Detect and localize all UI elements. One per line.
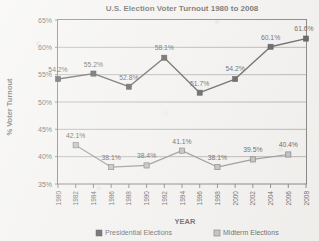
data-point-1982-42.1 [73, 143, 78, 148]
data-point-2000-54.2 [233, 76, 238, 81]
chart-title: U.S. Election Voter Turnout 1980 to 2008 [106, 4, 259, 13]
legend-swatch-presidential [96, 230, 102, 236]
chart-container: U.S. Election Voter Turnout 1980 to 2008… [0, 0, 319, 241]
y-tick-label-60: 60% [38, 44, 52, 51]
chart-legend: Presidential ElectionsMidterm Elections [96, 229, 279, 236]
x-tick-label-1996: 1996 [196, 191, 203, 206]
data-point-2006-40.4 [286, 152, 291, 157]
data-series [55, 36, 308, 170]
x-axis-title: YEAR [175, 217, 196, 226]
data-point-1992-58.1 [162, 55, 167, 60]
x-tick-label-2004: 2004 [267, 191, 274, 206]
data-point-1988-52.8 [126, 84, 131, 89]
data-point-1986-38.1 [109, 164, 114, 169]
x-tick-label-1986: 1986 [108, 191, 115, 206]
data-point-1994-41.1 [179, 148, 184, 153]
x-tick-label-2006: 2006 [285, 191, 292, 206]
data-label-2000: 54.2% [226, 65, 245, 72]
data-label-1990: 38.4% [137, 152, 156, 159]
y-axis-tick-labels: 35%40%45%50%55%60%65% [38, 17, 58, 188]
y-tick-label-35: 35% [38, 181, 52, 188]
y-tick-label-65: 65% [38, 17, 52, 24]
data-label-2002: 39.5% [243, 146, 262, 153]
data-label-1996: 51.7% [190, 80, 209, 87]
data-label-2004: 60.1% [261, 34, 280, 41]
x-tick-label-2002: 2002 [249, 191, 256, 206]
x-tick-label-1988: 1988 [125, 191, 132, 206]
data-label-1980: 54.2% [48, 66, 67, 73]
data-label-1992: 58.1% [155, 44, 174, 51]
data-point-labels: 54.2%55.2%52.8%58.1%51.7%54.2%60.1%61.6%… [48, 25, 313, 161]
x-tick-label-2000: 2000 [232, 191, 239, 206]
x-tick-label-1998: 1998 [214, 191, 221, 206]
data-label-1982: 42.1% [66, 132, 85, 139]
x-tick-label-1994: 1994 [179, 191, 186, 206]
data-point-1980-54.2 [55, 76, 60, 81]
data-point-1996-51.7 [197, 90, 202, 95]
data-label-2008: 61.6% [294, 25, 313, 32]
data-label-1998: 38.1% [208, 154, 227, 161]
x-tick-label-1980: 1980 [55, 191, 62, 206]
x-tick-label-1990: 1990 [143, 191, 150, 206]
legend-swatch-midterm [214, 230, 220, 236]
voter-turnout-line-chart: U.S. Election Voter Turnout 1980 to 2008… [0, 0, 319, 241]
x-tick-label-1992: 1992 [161, 191, 168, 206]
data-point-2004-60.1 [268, 44, 273, 49]
data-label-1988: 52.8% [119, 74, 138, 81]
legend-label-presidential: Presidential Elections [105, 229, 172, 236]
data-point-1998-38.1 [215, 164, 220, 169]
data-point-1984-55.2 [91, 71, 96, 76]
data-label-2006: 40.4% [279, 141, 298, 148]
x-tick-label-1982: 1982 [72, 191, 79, 206]
data-point-2008-61.6 [303, 36, 308, 41]
data-label-1984: 55.2% [84, 61, 103, 68]
y-tick-label-40: 40% [38, 153, 52, 160]
x-axis-tick-labels: 1980198219841986198819901992199419961998… [55, 184, 310, 205]
y-axis-title: % Voter Turnout [5, 78, 14, 136]
data-label-1994: 41.1% [172, 138, 191, 145]
data-label-1986: 38.1% [102, 154, 121, 161]
x-tick-label-2008: 2008 [303, 191, 310, 206]
y-tick-label-50: 50% [38, 99, 52, 106]
y-tick-label-45: 45% [38, 126, 52, 133]
data-point-1990-38.4 [144, 163, 149, 168]
x-tick-label-1984: 1984 [90, 191, 97, 206]
data-point-2002-39.5 [250, 157, 255, 162]
legend-label-midterm: Midterm Elections [223, 229, 279, 236]
